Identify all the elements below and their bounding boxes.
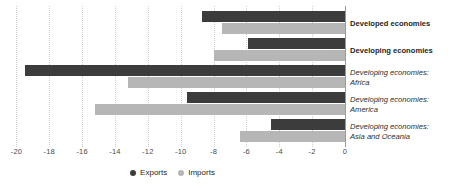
legend-label: Imports [188, 168, 215, 177]
category-label-line: Developing economies: [350, 122, 429, 132]
x-tick-label: -10 [175, 147, 186, 156]
legend-swatch-icon [130, 170, 136, 176]
bar-exports [271, 119, 345, 130]
category-label-line: Developing economies: [350, 95, 429, 105]
plot-area [0, 6, 345, 151]
category-label: Developing economies [350, 37, 453, 64]
category-label: Developing economies:America [350, 91, 453, 118]
bar-exports [248, 38, 345, 49]
legend-label: Exports [140, 168, 167, 177]
bar-imports [240, 131, 345, 142]
bar-exports [25, 65, 345, 76]
category-label: Developing economies:Asia and Oceania [350, 118, 453, 145]
bar-imports [128, 77, 345, 88]
x-tick-label: -2 [309, 147, 316, 156]
category-labels: Developed economiesDeveloping economiesD… [350, 6, 453, 151]
bar-row [0, 118, 345, 145]
bar-rows [0, 6, 345, 147]
x-tick-label: 0 [343, 147, 347, 156]
category-label-line: Developing economies [350, 46, 433, 56]
category-label-line: Africa [350, 78, 429, 88]
zero-axis-line [345, 6, 346, 147]
legend-item-exports[interactable]: Exports [130, 168, 167, 177]
x-tick-label: -6 [243, 147, 250, 156]
bar-row [0, 10, 345, 37]
category-label-line: Asia and Oceania [350, 132, 429, 142]
x-tick-label: -16 [76, 147, 87, 156]
bar-chart: -20-18-16-14-12-10-8-6-4-20 Developed ec… [0, 0, 453, 194]
category-label-line: Developing economies: [350, 68, 429, 78]
chart-legend: ExportsImports [0, 168, 345, 177]
x-tick-label: -4 [276, 147, 283, 156]
category-label: Developing economies:Africa [350, 64, 453, 91]
bar-row [0, 91, 345, 118]
x-tick-label: -20 [11, 147, 22, 156]
bar-imports [222, 23, 345, 34]
bar-row [0, 64, 345, 91]
bar-imports [214, 50, 345, 61]
x-tick-label: -8 [210, 147, 217, 156]
bar-exports [187, 92, 345, 103]
category-label-line: America [350, 105, 429, 115]
x-tick-label: -12 [142, 147, 153, 156]
category-label-line: Developed economies [350, 19, 430, 29]
legend-swatch-icon [178, 170, 184, 176]
category-label: Developed economies [350, 10, 453, 37]
x-tick-label: -14 [109, 147, 120, 156]
bar-imports [95, 104, 345, 115]
x-tick-label: -18 [44, 147, 55, 156]
x-axis: -20-18-16-14-12-10-8-6-4-20 [0, 147, 345, 161]
bar-exports [202, 11, 345, 22]
bar-row [0, 37, 345, 64]
legend-item-imports[interactable]: Imports [178, 168, 215, 177]
